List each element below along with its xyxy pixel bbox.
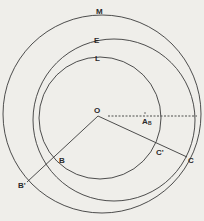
label-c-prime: C' — [156, 148, 164, 157]
label-b-prime: B' — [18, 181, 26, 190]
label-m: M — [96, 7, 103, 16]
diagram-canvas: M E L O B B' C' C A B — [0, 0, 204, 221]
circle-m — [3, 15, 201, 213]
line-o-b-prime — [27, 116, 98, 182]
label-angle-subscript: B — [148, 120, 152, 126]
label-e: E — [94, 36, 100, 45]
orbit-diagram: M E L O B B' C' C A B — [0, 0, 204, 221]
label-l: L — [95, 54, 100, 63]
circle-e — [33, 39, 195, 201]
label-o: O — [94, 106, 100, 115]
angle-marker-dot — [144, 112, 145, 113]
label-c: C — [188, 156, 194, 165]
label-b: B — [59, 156, 65, 165]
